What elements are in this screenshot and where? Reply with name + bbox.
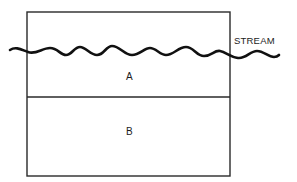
outer-boundary <box>27 12 230 176</box>
region-b-label: B <box>126 127 133 137</box>
region-a-label: A <box>126 72 133 82</box>
stream-label: STREAM <box>234 36 275 46</box>
property-diagram: STREAM A B <box>0 0 297 182</box>
stream-line <box>10 46 279 58</box>
diagram-canvas <box>0 0 297 182</box>
